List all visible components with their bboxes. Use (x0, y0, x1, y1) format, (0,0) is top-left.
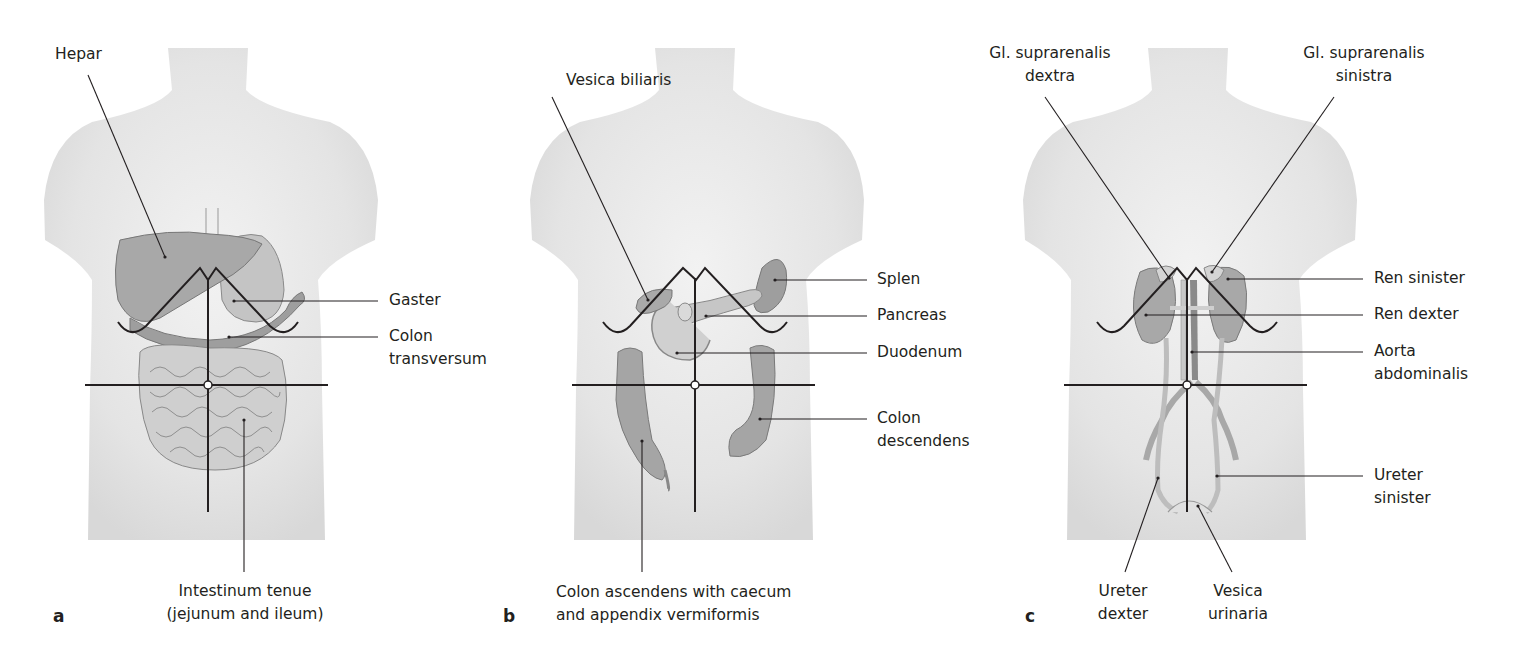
label-ren-dexter: Ren dexter (1374, 303, 1459, 326)
torso-silhouette (530, 48, 864, 540)
panel-letter-c: c (1025, 606, 1035, 626)
label-colon-transversum-2: transversum (389, 348, 487, 371)
label-gl-suprarenalis-sinistra-2: sinistra (1284, 65, 1444, 88)
label-aorta-abdominalis-2: abdominalis (1374, 363, 1468, 386)
label-colon-ascendens-2: and appendix vermiformis (556, 604, 760, 627)
label-hepar: Hepar (55, 43, 102, 66)
torso-silhouette (1023, 48, 1357, 540)
panel-letter-b: b (503, 606, 515, 626)
label-ureter-sinister-1: Ureter (1374, 464, 1423, 487)
label-splen: Splen (877, 268, 920, 291)
label-vesica-urinaria-1: Vesica (1198, 580, 1278, 603)
panel-c: Gl. suprarenalis dextra Gl. suprarenalis… (1000, 0, 1520, 652)
label-colon-transversum-1: Colon (389, 325, 433, 348)
label-ureter-dexter-2: dexter (1083, 603, 1163, 626)
torso-illustration-c (1000, 0, 1520, 652)
label-ureter-dexter-1: Ureter (1083, 580, 1163, 603)
label-gl-suprarenalis-sinistra-1: Gl. suprarenalis (1284, 42, 1444, 65)
umbilicus-marker (1183, 381, 1191, 389)
panel-b: Vesica biliaris Splen Pancreas Duodenum … (500, 0, 1000, 652)
label-duodenum: Duodenum (877, 341, 962, 364)
label-gl-suprarenalis-dextra-2: dextra (970, 65, 1130, 88)
label-gaster: Gaster (389, 289, 441, 312)
panel-a: Hepar Gaster Colon transversum Intestinu… (0, 0, 500, 652)
label-colon-descendens-1: Colon (877, 407, 921, 430)
label-aorta-abdominalis-1: Aorta (1374, 340, 1416, 363)
label-intestinum-2: (jejunum and ileum) (158, 603, 332, 626)
label-intestinum-1: Intestinum tenue (170, 580, 320, 603)
label-colon-descendens-2: descendens (877, 430, 970, 453)
label-vesica-biliaris: Vesica biliaris (566, 69, 671, 92)
label-ureter-sinister-2: sinister (1374, 487, 1431, 510)
label-ren-sinister: Ren sinister (1374, 267, 1465, 290)
label-pancreas: Pancreas (877, 304, 947, 327)
umbilicus-marker (204, 381, 212, 389)
label-colon-ascendens-1: Colon ascendens with caecum (556, 581, 791, 604)
umbilicus-marker (691, 381, 699, 389)
label-vesica-urinaria-2: urinaria (1198, 603, 1278, 626)
label-gl-suprarenalis-dextra-1: Gl. suprarenalis (970, 42, 1130, 65)
panel-letter-a: a (53, 606, 64, 626)
